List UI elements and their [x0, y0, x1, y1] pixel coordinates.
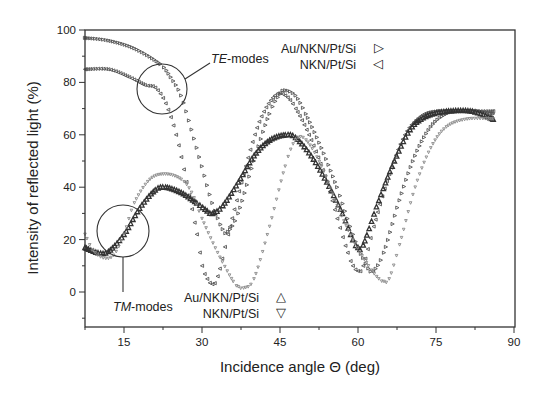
x-tick-label: 60	[352, 336, 365, 348]
y-tick-label: 20	[63, 234, 76, 246]
series-tm-au-nkn-pt-si	[83, 108, 496, 255]
series-markers	[84, 117, 495, 289]
x-tick-label: 45	[274, 336, 287, 348]
series-tm-nkn-pt-si	[84, 117, 495, 289]
x-tick-label: 15	[118, 336, 131, 348]
series-te-au-nkn-pt-si	[83, 36, 494, 273]
te-modes-label: TE-modes	[211, 52, 269, 66]
legend-tm-au-label: Au/NKN/Pt/Si	[184, 291, 259, 305]
y-tick-label: 0	[70, 286, 76, 298]
reflectance-chart: 020406080100153045607590 Incidence angle…	[0, 0, 548, 398]
legend-te-au-marker-icon: ▷	[374, 41, 384, 55]
x-tick-label: 30	[196, 336, 209, 348]
legend-tm-nkn-label: NKN/Pt/Si	[203, 307, 259, 321]
legend-tm-nkn-marker-icon: ▽	[276, 306, 286, 320]
y-axis-title: Intensity of reflected light (%)	[24, 81, 41, 274]
tm-modes-label: TM-modes	[113, 300, 173, 314]
series-markers	[83, 108, 496, 255]
y-tick-label: 40	[63, 181, 76, 193]
legend-tm: Au/NKN/Pt/Si △ NKN/Pt/Si ▽	[184, 290, 286, 321]
legend-te-nkn-label: NKN/Pt/Si	[300, 58, 356, 72]
y-tick-label: 100	[57, 24, 76, 36]
y-tick-label: 80	[63, 76, 76, 88]
legend-te-nkn-marker-icon: ◁	[373, 57, 383, 71]
te-modes-leader	[185, 63, 210, 79]
x-tick-label: 75	[430, 336, 443, 348]
series-markers	[83, 36, 494, 273]
tm-modes-circle	[97, 205, 149, 257]
legend-tm-au-marker-icon: △	[276, 290, 286, 304]
plot-frame	[85, 30, 515, 327]
legend-te: Au/NKN/Pt/Si ▷ NKN/Pt/Si ◁	[281, 41, 384, 72]
x-axis-title: Incidence angle Θ (deg)	[220, 358, 380, 375]
plot-area	[83, 36, 496, 289]
x-tick-label: 90	[508, 336, 521, 348]
series-markers	[83, 67, 494, 286]
series-te-nkn-pt-si	[83, 67, 494, 286]
y-tick-label: 60	[63, 129, 76, 141]
legend-te-au-label: Au/NKN/Pt/Si	[281, 42, 356, 56]
